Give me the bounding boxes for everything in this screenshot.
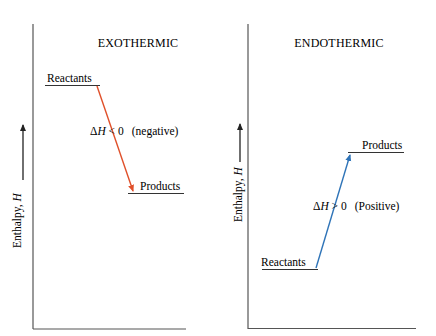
exothermic-reactants-label: Reactants: [47, 72, 92, 84]
endothermic-title: ENDOTHERMIC: [294, 36, 384, 50]
exothermic-delta-h-label: ΔH < 0(negative): [90, 125, 179, 138]
exothermic-title: EXOTHERMIC: [98, 36, 179, 50]
exothermic-y-axis-label: Enthalpy, H: [11, 192, 24, 248]
endothermic-panel: ENDOTHERMIC Enthalpy, H Products ΔH > 0(…: [232, 24, 416, 329]
svg-text:Enthalpy, H: Enthalpy, H: [11, 192, 24, 248]
exothermic-delta-h-arrow: [97, 86, 133, 191]
svg-text:Enthalpy, H: Enthalpy, H: [232, 166, 245, 222]
endothermic-reactants-label: Reactants: [261, 256, 306, 268]
endothermic-y-axis-label: Enthalpy, H: [232, 166, 245, 222]
exothermic-products-label: Products: [140, 180, 181, 192]
exothermic-panel: EXOTHERMIC Enthalpy, H Reactants ΔH < 0(…: [11, 24, 186, 329]
enthalpy-diagrams: EXOTHERMIC Enthalpy, H Reactants ΔH < 0(…: [0, 0, 436, 336]
endothermic-products-label: Products: [362, 139, 403, 151]
endothermic-delta-h-label: ΔH > 0(Positive): [313, 200, 400, 213]
